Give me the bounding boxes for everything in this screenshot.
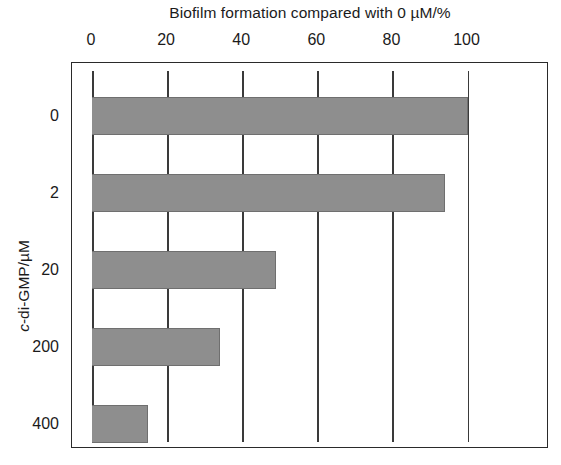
x-tick-label-60: 60 — [307, 30, 325, 49]
y-tick-label-20: 20 — [41, 260, 59, 279]
y-tick-label-2: 2 — [50, 183, 59, 202]
x-tick-label-40: 40 — [232, 30, 250, 49]
y-tick-label-400: 400 — [32, 414, 59, 433]
plot-area — [72, 63, 547, 447]
bar-chart-figure: Biofilm formation compared with 0 µM/% 0… — [0, 0, 561, 465]
x-tick-label-20: 20 — [157, 30, 175, 49]
bar-400 — [92, 405, 148, 443]
bar-200 — [92, 328, 220, 366]
y-axis-tick-labels: c-di-GMP/µM 0220200400 — [0, 62, 71, 448]
y-axis-title-italic-part: c — [15, 324, 32, 332]
bar-0 — [92, 97, 468, 135]
x-tick-label-80: 80 — [382, 30, 400, 49]
y-tick-label-0: 0 — [50, 106, 59, 125]
y-tick-label-200: 200 — [32, 337, 59, 356]
y-axis-title-rest: -di-GMP/µM — [15, 240, 32, 324]
x-tick-label-0: 0 — [87, 30, 96, 49]
x-tick-label-100: 100 — [453, 30, 480, 49]
x-axis-tick-labels: 020406080100 — [0, 30, 561, 52]
bar-20 — [92, 251, 276, 289]
chart-title: Biofilm formation compared with 0 µM/% — [71, 4, 549, 22]
bar-2 — [92, 174, 445, 212]
gridline-100 — [468, 71, 470, 442]
y-axis-title: c-di-GMP/µM — [15, 186, 33, 386]
plot-frame — [71, 62, 548, 448]
